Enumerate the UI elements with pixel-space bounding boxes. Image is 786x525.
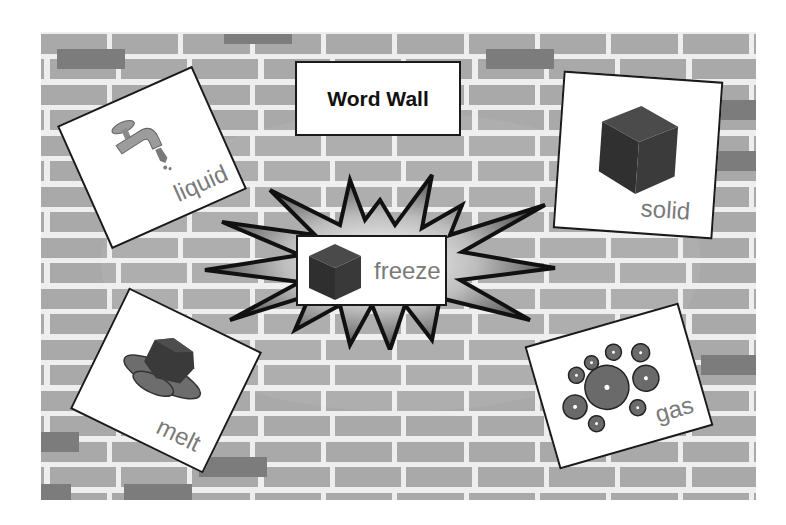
word-wall-title: Word Wall: [295, 61, 461, 136]
melting-cube-icon: [110, 318, 222, 420]
cube-icon: [307, 242, 363, 302]
cube-icon: [593, 101, 683, 199]
freeze-card[interactable]: freeze: [296, 235, 447, 306]
solid-card[interactable]: solid: [553, 71, 724, 240]
solid-word: solid: [640, 194, 691, 225]
freeze-word: freeze: [374, 257, 441, 285]
melt-word: melt: [152, 413, 205, 458]
title-text: Word Wall: [327, 87, 429, 111]
